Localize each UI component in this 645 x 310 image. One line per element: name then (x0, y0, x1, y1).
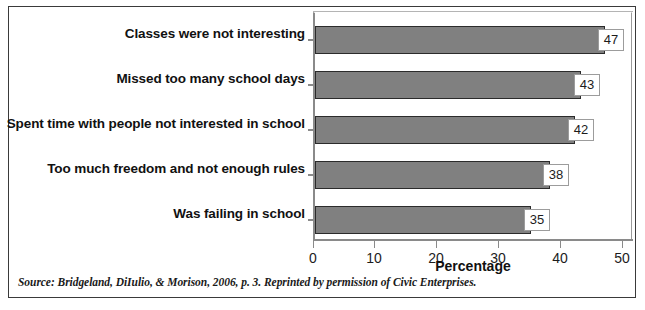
bar-value-0: 47 (598, 29, 624, 51)
category-label-3: Too much freedom and not enough rules (5, 161, 305, 176)
plot-area: 47 43 42 38 35 (313, 12, 632, 239)
y-tick-3 (308, 174, 315, 176)
bar-value-2: 42 (568, 119, 594, 141)
y-tick-2 (308, 129, 315, 131)
figure: Classes were not interesting Missed too … (0, 0, 645, 310)
x-axis-title: Percentage (313, 258, 633, 274)
bar-was-failing-in-school[interactable] (315, 206, 531, 234)
x-tick-3 (498, 241, 499, 248)
x-tick-4 (560, 241, 561, 248)
category-label-1: Missed too many school days (5, 71, 305, 86)
bar-row: 38 (315, 153, 631, 198)
bar-value-4: 35 (524, 209, 550, 231)
category-label-4: Was failing in school (5, 206, 305, 221)
x-tick-1 (374, 241, 375, 248)
y-tick-1 (308, 84, 315, 86)
bar-value-3: 38 (543, 164, 569, 186)
bar-missed-too-many-school-days[interactable] (315, 71, 581, 99)
category-label-2: Spent time with people not interested in… (5, 116, 305, 131)
x-tick-0 (313, 241, 314, 248)
source-note: Source: Bridgeland, DiIulio, & Morison, … (18, 276, 476, 288)
bar-value-1: 43 (574, 74, 600, 96)
x-tick-5 (622, 241, 623, 248)
bar-classes-were-not-interesting[interactable] (315, 26, 605, 54)
x-tick-2 (436, 241, 437, 248)
bar-row: 47 (315, 18, 631, 63)
category-label-0: Classes were not interesting (5, 26, 305, 41)
bar-row: 35 (315, 198, 631, 243)
bar-row: 43 (315, 63, 631, 108)
bar-spent-time-with-people-not-interested-in-school[interactable] (315, 116, 575, 144)
y-tick-0 (308, 39, 315, 41)
bar-too-much-freedom-and-not-enough-rules[interactable] (315, 161, 550, 189)
bar-row: 42 (315, 108, 631, 153)
y-tick-4 (308, 219, 315, 221)
